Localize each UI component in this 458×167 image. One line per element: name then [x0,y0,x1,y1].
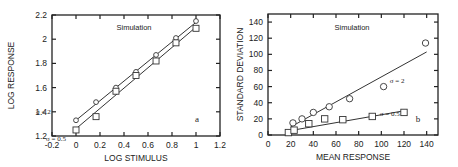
x-tick-label: 80 [354,139,364,149]
simulation-annotation: Simulation [116,23,151,32]
square-marker [369,113,375,119]
square-marker [193,25,199,31]
x-tick-label: 40 [309,139,319,149]
y-axis-label: STANDARD DEVIATION [235,28,245,122]
x-tick-label: 1.2 [214,140,226,150]
series-label: σ = 2 [36,108,51,116]
x-axis-label: LOG STIMULUS [104,153,168,163]
series-label: σ = 0.5 [46,135,66,143]
x-tick-label: 1 [194,140,199,150]
square-marker [173,40,179,46]
series-sigma-0-5 [73,25,199,133]
square-marker [401,109,407,115]
square-marker [340,116,346,122]
y-tick-label: 2.2 [35,10,47,20]
x-tick-label: 0.6 [142,140,154,150]
series-sigma-2 [74,19,199,123]
x-tick-label: 0.4 [118,140,130,150]
y-tick-label: 20 [254,114,264,124]
circle-marker [74,118,79,123]
x-axis-label: MEAN RESPONSE [316,152,390,162]
y-tick-label: 80 [254,65,264,75]
square-marker [291,127,297,133]
x-tick-label: 100 [374,139,388,149]
circle-marker [290,120,296,126]
circle-marker [380,83,386,89]
x-tick-label: 60 [331,139,341,149]
panel-label: a [195,114,199,124]
circle-marker [346,96,352,102]
y-tick-label: 40 [254,98,264,108]
square-marker [321,116,327,122]
square-marker [306,121,312,127]
circle-marker [326,104,332,110]
x-tick-label: 140 [420,139,434,149]
series-label: σ = 0.5 [380,110,400,118]
chart-panel-b: 020406080100120140020406080100120140MEAN… [235,14,438,162]
x-tick-label: 20 [286,139,296,149]
y-tick-label: 120 [249,33,263,43]
y-tick-label: 2 [42,34,47,44]
y-tick-label: 100 [249,49,263,59]
y-tick-label: 0 [258,130,263,140]
x-tick-label: 0.2 [94,140,106,150]
circle-marker [299,116,305,122]
y-tick-label: 1.6 [35,83,47,93]
x-tick-label: 0 [74,140,79,150]
y-tick-label: 140 [249,17,263,27]
x-tick-label: 0.8 [166,140,178,150]
circle-marker [154,53,159,58]
square-marker [93,114,99,120]
y-axis-label: LOG RESPONSE [6,41,16,109]
x-tick-label: 0 [266,139,271,149]
chart-panel-a: -0.200.20.40.60.811.21.21.41.61.822.2LOG… [6,10,226,163]
y-tick-label: 1.8 [35,58,47,68]
circle-marker [310,109,316,115]
square-marker [73,127,79,133]
y-tick-label: 60 [254,82,264,92]
circle-marker [194,19,199,24]
panel-label: b [416,114,421,124]
series-sigma-2 [290,40,429,127]
square-marker [113,88,119,94]
simulation-annotation: Simulation [334,23,369,32]
circle-marker [422,40,428,46]
x-tick-label: 120 [397,139,411,149]
series-label: σ = 2 [390,77,405,85]
circle-marker [94,100,99,105]
figure: -0.200.20.40.60.811.21.21.41.61.822.2LOG… [0,0,458,167]
square-marker [133,73,139,79]
plot-frame [268,14,438,135]
square-marker [153,58,159,64]
